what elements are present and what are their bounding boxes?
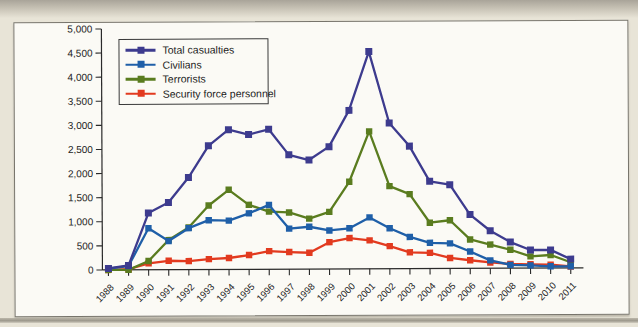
data-point-marker-security-force-personnel	[326, 239, 332, 245]
data-point-marker-total-casualties	[225, 126, 232, 133]
legend-item-security-force-personnel: Security force personnel	[126, 86, 262, 101]
x-axis-tick-label: 1990	[133, 281, 156, 304]
data-point-marker-terrorists	[527, 253, 533, 259]
data-point-marker-civilians	[286, 225, 292, 231]
x-axis-tick-label: 2005	[435, 280, 458, 303]
data-point-marker-total-casualties	[446, 181, 453, 188]
y-axis-tick-label: 0	[88, 264, 94, 275]
x-axis-tick-label: 2007	[475, 280, 498, 303]
data-point-marker-total-casualties	[285, 151, 292, 158]
data-point-marker-security-force-personnel	[366, 237, 372, 243]
data-point-marker-terrorists	[467, 236, 473, 242]
data-point-marker-security-force-personnel	[286, 249, 292, 255]
data-point-marker-total-casualties	[487, 227, 494, 234]
data-point-marker-total-casualties	[125, 262, 132, 269]
data-point-marker-terrorists	[205, 202, 211, 208]
data-point-marker-civilians	[427, 240, 433, 246]
data-point-marker-civilians	[206, 217, 212, 223]
data-point-marker-civilians	[165, 238, 171, 244]
data-point-marker-terrorists	[266, 208, 272, 214]
y-axis-tick-label: 3,500	[68, 96, 94, 107]
legend-square-marker-icon	[137, 90, 144, 97]
data-point-marker-terrorists	[346, 179, 352, 185]
legend-label: Security force personnel	[163, 87, 276, 99]
data-point-marker-security-force-personnel	[346, 235, 352, 241]
x-axis-tick-label: 1995	[234, 281, 257, 304]
x-axis-tick-label: 1999	[314, 281, 337, 304]
legend-item-total-casualties: Total casualties	[125, 43, 261, 58]
scan-bottom-shadow	[0, 318, 638, 323]
data-point-marker-total-casualties	[325, 143, 332, 150]
data-point-marker-terrorists	[507, 247, 513, 253]
legend-swatch-icon	[125, 46, 155, 54]
data-point-marker-civilians	[226, 217, 232, 223]
data-point-marker-civilians	[547, 263, 553, 269]
x-axis-tick-label: 2000	[334, 281, 357, 304]
data-point-marker-terrorists	[406, 191, 412, 197]
y-axis-tick-label: 500	[77, 240, 94, 251]
x-axis-tick-label: 1998	[294, 281, 317, 304]
data-point-marker-terrorists	[326, 209, 332, 215]
data-point-marker-civilians	[568, 263, 574, 269]
legend-label: Terrorists	[163, 73, 206, 85]
legend-label: Civilians	[163, 58, 202, 70]
data-point-marker-total-casualties	[145, 210, 152, 217]
data-point-marker-civilians	[467, 248, 473, 254]
data-point-marker-civilians	[246, 210, 252, 216]
data-point-marker-civilians	[346, 225, 352, 231]
x-axis-tick-label: 2008	[495, 280, 518, 303]
x-axis-line	[102, 268, 583, 270]
scanned-page: 5,0004,5004,0003,5003,0002,5002,0001,500…	[0, 0, 638, 327]
y-axis-tick-label: 4,500	[67, 48, 93, 59]
data-point-marker-security-force-personnel	[306, 250, 312, 256]
data-point-marker-civilians	[366, 214, 372, 220]
figure-frame: 5,0004,5004,0003,5003,0002,5002,0001,500…	[13, 20, 629, 318]
data-point-marker-security-force-personnel	[427, 250, 433, 256]
data-point-marker-total-casualties	[305, 157, 312, 164]
x-axis-tick-label: 2011	[556, 280, 578, 302]
data-point-marker-total-casualties	[105, 265, 112, 272]
x-axis-tick-label: 2001	[355, 280, 378, 303]
data-point-marker-civilians	[527, 262, 533, 268]
data-point-marker-civilians	[507, 262, 513, 268]
data-point-marker-terrorists	[366, 128, 372, 134]
y-axis-tick-label: 1,000	[68, 216, 94, 227]
data-point-marker-terrorists	[306, 215, 312, 221]
data-point-marker-total-casualties	[567, 256, 574, 263]
data-point-marker-civilians	[266, 202, 272, 208]
y-axis-tick-label: 3,000	[68, 120, 94, 131]
data-point-marker-total-casualties	[365, 48, 372, 55]
chart-legend: Total casualtiesCiviliansTerroristsSecur…	[118, 38, 268, 105]
data-point-marker-terrorists	[487, 241, 493, 247]
x-axis-tick-label: 1988	[93, 282, 116, 305]
x-axis-tick-label: 1991	[154, 281, 177, 304]
data-point-marker-total-casualties	[547, 246, 554, 253]
x-axis-tick-label: 2010	[535, 280, 558, 303]
legend-square-marker-icon	[137, 61, 144, 68]
scan-top-shadow	[0, 0, 638, 18]
data-point-marker-total-casualties	[205, 142, 212, 149]
data-point-marker-total-casualties	[345, 107, 352, 114]
data-point-marker-security-force-personnel	[165, 258, 171, 264]
data-point-marker-total-casualties	[426, 178, 433, 185]
x-axis-tick-label: 2002	[375, 280, 398, 303]
x-axis-tick-label: 2004	[415, 280, 438, 303]
data-point-marker-total-casualties	[466, 211, 473, 218]
data-point-marker-civilians	[326, 227, 332, 233]
legend-item-civilians: Civilians	[126, 57, 262, 72]
data-point-marker-security-force-personnel	[186, 258, 192, 264]
legend-label: Total casualties	[162, 44, 234, 56]
data-point-marker-terrorists	[286, 209, 292, 215]
legend-swatch-icon	[126, 75, 156, 83]
data-point-marker-terrorists	[427, 220, 433, 226]
x-axis-tick-label: 1989	[113, 281, 136, 304]
data-point-marker-civilians	[386, 225, 392, 231]
data-point-marker-security-force-personnel	[246, 252, 252, 258]
data-point-marker-civilians	[145, 225, 151, 231]
data-point-marker-total-casualties	[185, 174, 192, 181]
data-point-marker-terrorists	[225, 187, 231, 193]
y-axis-tick-label: 5,000	[67, 23, 93, 34]
data-point-marker-security-force-personnel	[387, 243, 393, 249]
data-point-marker-total-casualties	[406, 143, 413, 150]
data-point-marker-security-force-personnel	[447, 255, 453, 261]
